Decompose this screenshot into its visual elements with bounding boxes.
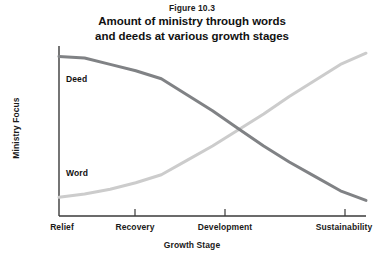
- series-line-word: [59, 53, 366, 197]
- series-label-deed: Deed: [66, 74, 87, 84]
- x-tick-label-recovery: Recovery: [115, 222, 154, 232]
- x-tick-label-development: Development: [198, 222, 252, 232]
- x-tick-label-sustainability: Sustainability: [316, 222, 373, 232]
- x-tick-label-relief: Relief: [50, 222, 74, 232]
- x-axis-title: Growth Stage: [0, 240, 384, 250]
- y-axis-title: Ministry Focus: [11, 97, 21, 158]
- x-axis-ticks: [135, 209, 345, 216]
- figure-container: Figure 10.3 Amount of ministry through w…: [0, 0, 384, 268]
- series-label-word: Word: [66, 168, 88, 178]
